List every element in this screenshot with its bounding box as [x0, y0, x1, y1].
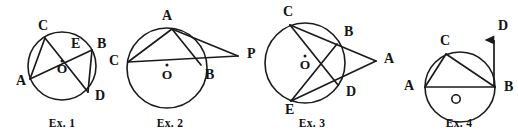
ex3-secant-CA	[290, 25, 376, 61]
figure-ex4: A B C D Ex. 4	[404, 18, 513, 128]
ex2-center-dot	[166, 64, 169, 67]
ex4-point-label-D: D	[498, 18, 508, 33]
ex4-center-ring	[452, 95, 460, 103]
ex1-point-label-A: A	[16, 73, 27, 88]
ex4-point-label-B: B	[504, 79, 513, 94]
figure-board: O A B C D E Ex. 1 O A B C P Ex. 2	[0, 0, 518, 136]
ex3-point-label-D: D	[346, 84, 356, 99]
ex4-caption: Ex. 4	[446, 117, 472, 129]
ex4-chord-AC	[425, 54, 446, 87]
ex2-point-label-A: A	[162, 8, 173, 23]
ex2-caption: Ex. 2	[157, 117, 183, 129]
ex3-point-label-A: A	[384, 51, 395, 66]
ex1-point-label-C: C	[38, 18, 48, 33]
ex3-point-label-B: B	[344, 24, 353, 39]
ex2-secant-CP	[128, 56, 238, 62]
ex1-caption: Ex. 1	[49, 117, 75, 129]
ex3-center-label: O	[300, 57, 311, 72]
ex3-chord-BE	[291, 44, 337, 101]
ex2-point-label-C: C	[109, 53, 119, 68]
ex1-center-label: O	[57, 61, 68, 76]
ex1-point-label-B: B	[97, 36, 106, 51]
ex1-point-label-D: D	[95, 88, 105, 103]
ex4-point-label-C: C	[440, 33, 450, 48]
ex2-point-label-P: P	[247, 46, 256, 61]
geometry-diagram-svg: O A B C D E Ex. 1 O A B C P Ex. 2	[0, 0, 518, 136]
ex2-center-label: O	[162, 67, 173, 82]
ex3-chord-CD	[290, 25, 338, 85]
figure-ex1: O A B C D E Ex. 1	[16, 18, 106, 128]
ex2-point-label-B: B	[205, 67, 214, 82]
ex3-point-label-C: C	[283, 4, 293, 19]
ex3-caption: Ex. 3	[299, 117, 325, 129]
ex1-point-label-E: E	[71, 36, 80, 51]
figure-ex2: O A B C P Ex. 2	[109, 8, 256, 128]
figure-ex3: O C B A D E Ex. 3	[265, 4, 395, 128]
ex3-point-label-E: E	[285, 102, 294, 117]
ex4-chord-CB	[446, 54, 495, 87]
ex4-point-label-A: A	[404, 78, 415, 93]
